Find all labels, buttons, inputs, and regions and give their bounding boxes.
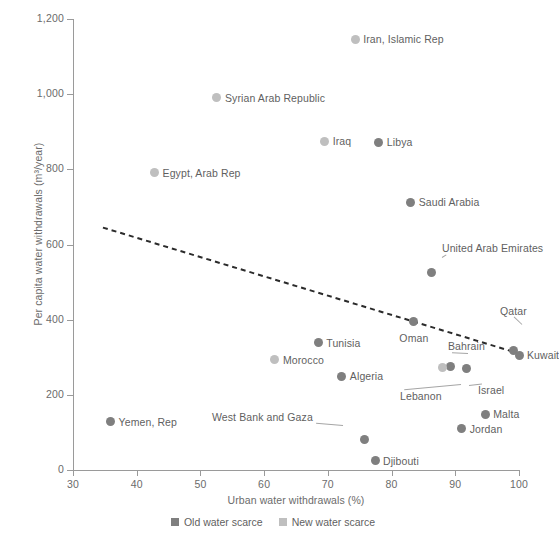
data-point-label: Israel: [478, 384, 504, 397]
data-point-label: Yemen, Rep: [119, 416, 177, 429]
data-point-label: Oman: [399, 332, 428, 345]
data-point[interactable]: [320, 137, 329, 146]
data-point-label: Qatar: [500, 305, 527, 318]
data-point[interactable]: [371, 456, 380, 465]
data-point-label: Kuwait: [527, 349, 559, 362]
data-point[interactable]: [446, 362, 455, 371]
legend-swatch-icon: [171, 518, 179, 526]
legend-label: New water scarce: [292, 516, 375, 528]
data-point[interactable]: [360, 435, 369, 444]
legend-swatch-icon: [279, 518, 287, 526]
data-point-label: Malta: [493, 408, 519, 421]
chart-legend: Old water scarceNew water scarce: [0, 516, 546, 528]
data-point-label: Algeria: [350, 370, 383, 383]
legend-label: Old water scarce: [184, 516, 263, 528]
data-point-label: Egypt, Arab Rep: [163, 166, 241, 179]
data-point-label: Saudi Arabia: [419, 196, 480, 209]
data-point-label: Iran, Islamic Rep: [363, 33, 443, 46]
data-point-label: Bahrain: [448, 340, 485, 353]
data-point-label: Iraq: [333, 135, 352, 148]
data-point[interactable]: [337, 372, 346, 381]
data-point-label: United Arab Emirates: [442, 242, 512, 255]
data-point-label: Libya: [387, 136, 413, 149]
data-point-label: Lebanon: [400, 390, 442, 403]
data-point-label: West Bank and Gaza: [212, 411, 313, 424]
data-point-label: Syrian Arab Republic: [225, 91, 325, 104]
data-point-label: Djibouti: [383, 454, 419, 467]
data-point[interactable]: [515, 351, 524, 360]
data-point-label: Jordan: [470, 422, 503, 435]
data-point-label: Tunisia: [326, 337, 360, 350]
data-point[interactable]: [351, 35, 360, 44]
data-point-label: Morocco: [283, 354, 324, 367]
data-point[interactable]: [481, 410, 490, 419]
legend-item[interactable]: New water scarce: [279, 516, 375, 528]
legend-item[interactable]: Old water scarce: [171, 516, 263, 528]
data-point[interactable]: [406, 198, 415, 207]
